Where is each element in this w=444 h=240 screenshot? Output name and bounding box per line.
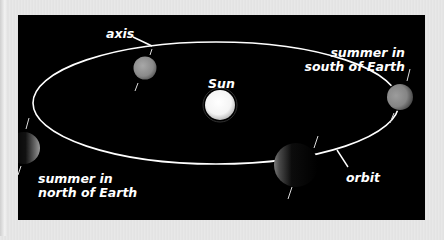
sun-icon bbox=[203, 88, 237, 122]
diagram-panel: axis Sun summer in south of Earth summer… bbox=[18, 15, 425, 220]
summer-north-line2: north of Earth bbox=[38, 186, 137, 200]
earth-left-icon bbox=[18, 118, 40, 175]
summer-south-line2: south of Earth bbox=[304, 60, 405, 74]
earth-top-icon bbox=[133, 49, 158, 91]
summer-south-label: summer in south of Earth bbox=[304, 46, 405, 74]
axis-pointer bbox=[133, 37, 152, 46]
orbit-pointer bbox=[337, 150, 348, 167]
summer-north-line1: summer in bbox=[38, 172, 137, 186]
earth-right-icon bbox=[386, 69, 414, 123]
orbit-label: orbit bbox=[346, 171, 380, 185]
sun-label: Sun bbox=[208, 77, 235, 91]
summer-south-line1: summer in bbox=[304, 46, 405, 60]
axis-label: axis bbox=[106, 27, 134, 41]
summer-north-label: summer in north of Earth bbox=[38, 172, 137, 200]
page-edge bbox=[0, 0, 8, 236]
earth-bottom-icon bbox=[274, 136, 318, 199]
